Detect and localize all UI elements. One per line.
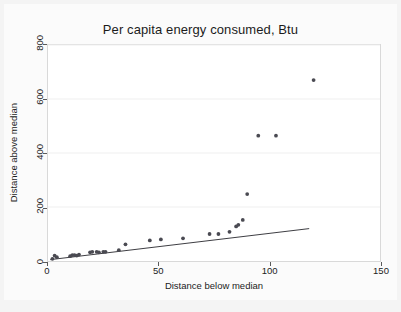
data-point	[55, 255, 59, 259]
x-tick-mark	[158, 262, 159, 266]
data-point	[159, 238, 163, 242]
x-tick-label: 150	[373, 266, 389, 276]
data-point	[117, 248, 121, 252]
gridlines	[48, 45, 380, 207]
data-point	[312, 78, 316, 82]
data-point	[51, 257, 55, 261]
data-point	[256, 134, 260, 138]
data-point	[181, 236, 185, 240]
data-point	[124, 242, 128, 246]
y-tick-label: 800	[35, 35, 45, 51]
x-axis-title: Distance below median	[47, 280, 381, 291]
chart-title: Per capita energy consumed, Btu	[4, 22, 397, 37]
data-point	[104, 250, 108, 254]
y-tick-label: 600	[35, 89, 45, 105]
x-tick-mark	[47, 262, 48, 266]
data-layer	[48, 45, 380, 261]
x-tick-mark	[270, 262, 271, 266]
y-tick-label: 400	[35, 144, 45, 160]
x-tick-label: 100	[262, 266, 278, 276]
x-tick-label: 0	[44, 266, 49, 276]
data-point	[217, 232, 221, 236]
data-point	[228, 230, 232, 234]
plot-area	[47, 44, 381, 262]
y-axis-tick-labels: 0200400600800	[4, 44, 47, 262]
chart-canvas: Per capita energy consumed, Btu Distance…	[4, 4, 397, 300]
data-point	[77, 253, 81, 257]
regression-line	[50, 229, 309, 260]
scatter-points	[51, 78, 316, 261]
data-point	[245, 192, 249, 196]
y-tick-label: 200	[35, 198, 45, 214]
x-tick-label: 50	[153, 266, 164, 276]
x-tick-mark	[381, 262, 382, 266]
x-axis-tick-labels: 050100150	[47, 262, 381, 278]
data-point	[97, 250, 101, 254]
data-point	[241, 218, 245, 222]
data-point	[90, 250, 94, 254]
data-point	[208, 232, 212, 236]
data-point	[148, 239, 152, 243]
data-point	[236, 223, 240, 227]
data-point	[274, 134, 278, 138]
chart-figure: Per capita energy consumed, Btu Distance…	[0, 0, 401, 312]
